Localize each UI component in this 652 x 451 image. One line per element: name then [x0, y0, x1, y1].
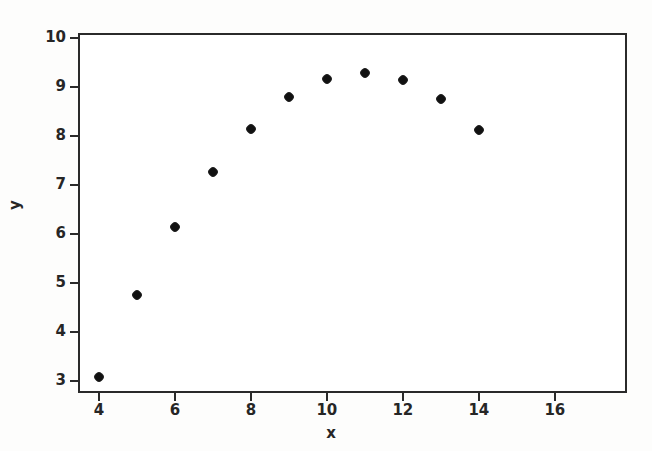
y-tick-mark [70, 282, 78, 284]
x-tick-label: 10 [307, 401, 347, 419]
y-tick-mark [70, 86, 78, 88]
data-point [282, 91, 295, 104]
y-tick-mark [70, 233, 78, 235]
y-tick-label: 5 [22, 273, 66, 291]
data-point [207, 165, 220, 178]
y-tick-mark [70, 184, 78, 186]
y-tick-label: 3 [22, 371, 66, 389]
y-tick-label: 7 [22, 175, 66, 193]
data-point [320, 72, 333, 85]
data-point [131, 289, 144, 302]
y-tick-label: 9 [22, 77, 66, 95]
y-tick-label: 4 [22, 322, 66, 340]
x-tick-label: 8 [231, 401, 271, 419]
x-tick-mark [98, 393, 100, 401]
data-point [169, 221, 182, 234]
x-tick-mark [326, 393, 328, 401]
x-tick-mark [250, 393, 252, 401]
x-tick-mark [402, 393, 404, 401]
x-axis-label: x [0, 424, 652, 442]
y-tick-mark [70, 135, 78, 137]
data-point [93, 370, 106, 383]
x-tick-mark [478, 393, 480, 401]
y-tick-label: 6 [22, 224, 66, 242]
x-tick-label: 14 [459, 401, 499, 419]
y-tick-mark [70, 37, 78, 39]
y-tick-mark [70, 331, 78, 333]
x-tick-mark [174, 393, 176, 401]
data-point [472, 124, 485, 137]
x-tick-mark [554, 393, 556, 401]
y-axis-label: y [6, 200, 24, 210]
data-point [244, 122, 257, 135]
plot-data-area [78, 33, 627, 393]
x-tick-label: 4 [79, 401, 119, 419]
x-tick-label: 16 [535, 401, 575, 419]
x-tick-label: 6 [155, 401, 195, 419]
y-tick-mark [70, 380, 78, 382]
x-tick-label: 12 [383, 401, 423, 419]
y-tick-label: 10 [22, 28, 66, 46]
data-point [358, 66, 371, 79]
data-point [396, 73, 409, 86]
y-tick-label: 8 [22, 126, 66, 144]
scatter-plot-figure: 46810121416 345678910 x y [0, 0, 652, 451]
data-point [434, 93, 447, 106]
